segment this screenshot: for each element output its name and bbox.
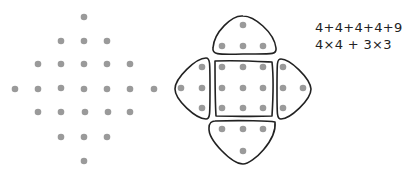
left-dot-diamond xyxy=(12,14,158,165)
right-partitioned-diagram xyxy=(175,16,311,164)
equation-sum: 4+4+4+4+9 xyxy=(315,20,403,35)
equation-product: 4×4 + 3×3 xyxy=(315,37,392,52)
